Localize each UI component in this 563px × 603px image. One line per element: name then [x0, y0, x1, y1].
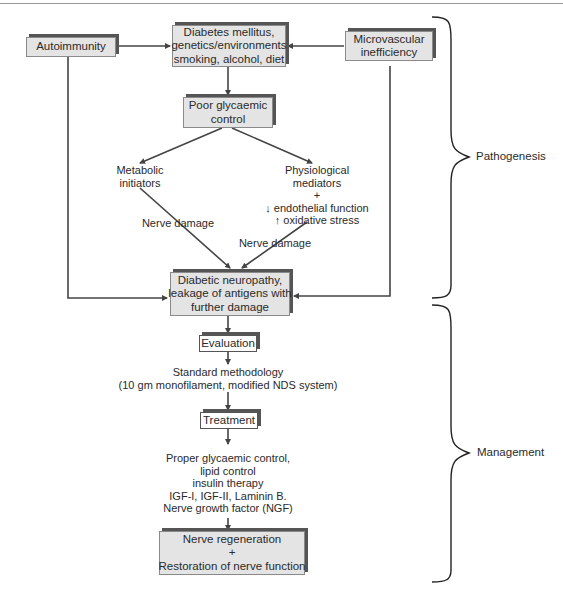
label-nerve-damage-left: Nerve damage [138, 217, 218, 230]
label-nerve-damage-right: Nerve damage [235, 237, 315, 250]
pathogenesis-brace [432, 17, 469, 298]
label-management: Management [477, 446, 544, 458]
label-line: ↑ oxidative stress [252, 214, 382, 227]
node-label: leakage of antigens with [168, 287, 291, 301]
node-microvascular: Microvascular inefficiency [345, 31, 433, 61]
node-label: Poor glycaemic [189, 99, 268, 113]
node-label: Microvascular [354, 33, 425, 47]
management-brace [432, 305, 469, 582]
label-line: Standard methodology [118, 366, 338, 379]
label-treatment-list: Proper glycaemic control, lipid control … [148, 452, 308, 515]
node-label: Evaluation [201, 337, 255, 351]
node-poor-glycaemic-control: Poor glycaemic control [183, 97, 273, 128]
node-label: Nerve regeneration [158, 533, 305, 547]
node-diabetes: Diabetes mellitus, genetics/environments… [172, 25, 286, 67]
node-label: control [189, 113, 268, 127]
label-line: Proper glycaemic control, [148, 452, 308, 465]
node-label: Treatment [203, 414, 255, 428]
label-physiological-mediators: Physiological mediators + ↓ endothelial … [252, 164, 382, 227]
node-treatment: Treatment [200, 412, 258, 429]
node-autoimmunity: Autoimmunity [26, 37, 116, 57]
label-line: Metabolic [100, 164, 180, 177]
label-line: ↓ endothelial function [252, 202, 382, 215]
label-line: Nerve damage [235, 237, 315, 250]
node-label: Autoimmunity [36, 40, 106, 54]
node-evaluation: Evaluation [199, 335, 257, 352]
label-line: lipid control [148, 465, 308, 478]
node-diabetic-neuropathy: Diabetic neuropathy, leakage of antigens… [170, 272, 290, 316]
label-line: Nerve damage [138, 217, 218, 230]
node-label: Diabetic neuropathy, [168, 274, 291, 288]
node-label: inefficiency [354, 46, 425, 60]
label-line: + [252, 189, 382, 202]
label-line: (10 gm monofilament, modified NDS system… [118, 379, 338, 392]
label-line: initiators [100, 177, 180, 190]
label-line: IGF-I, IGF-II, Laminin B. [148, 490, 308, 503]
node-label: further damage [168, 301, 291, 315]
node-label: genetics/environments [171, 39, 286, 53]
label-line: insulin therapy [148, 477, 308, 490]
arrow-control-to-physiological [232, 128, 312, 163]
label-pathogenesis: Pathogenesis [476, 150, 546, 162]
arrow-control-to-metabolic [140, 128, 222, 163]
node-label: Diabetes mellitus, [171, 26, 286, 40]
node-nerve-regeneration: Nerve regeneration + Restoration of nerv… [159, 531, 305, 575]
node-label: Restoration of nerve function [158, 560, 305, 574]
label-standard-methodology: Standard methodology (10 gm monofilament… [118, 366, 338, 391]
node-label: + [158, 546, 305, 560]
label-line: mediators [252, 177, 382, 190]
node-label: smoking, alcohol, diet [171, 53, 286, 67]
label-line: Physiological [252, 164, 382, 177]
label-line: Nerve growth factor (NGF) [148, 502, 308, 515]
label-metabolic-initiators: Metabolic initiators [100, 164, 180, 189]
